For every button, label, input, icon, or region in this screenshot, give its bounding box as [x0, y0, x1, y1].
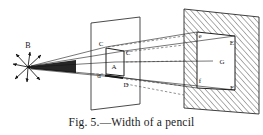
- label-G: G: [219, 58, 224, 66]
- label-B: B: [25, 41, 30, 50]
- figure-container: B C C A d D e E G f F Fig. 5.—Width of a…: [0, 0, 263, 135]
- label-d: d: [97, 72, 101, 80]
- label-E: E: [230, 39, 234, 47]
- label-D: D: [123, 81, 128, 89]
- arrow-up: [28, 52, 30, 67]
- figure-caption: Fig. 5.—Width of a pencil: [0, 116, 263, 128]
- arrow-down: [27, 67, 28, 82]
- figure-drawing: B C C A d D e E G f F: [0, 0, 263, 135]
- source-point-dot: [28, 66, 31, 69]
- label-C-outer: C: [99, 40, 104, 48]
- label-C-inner: C: [126, 49, 131, 57]
- label-e: e: [198, 32, 201, 40]
- label-F: F: [230, 84, 234, 92]
- arrow-downleft: [15, 67, 28, 79]
- label-A: A: [111, 63, 116, 71]
- source-point-group: [13, 52, 76, 82]
